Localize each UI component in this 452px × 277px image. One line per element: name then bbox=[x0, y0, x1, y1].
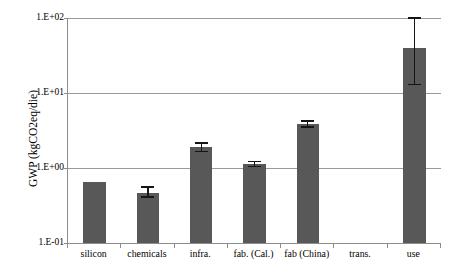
x-axis-tick-mark bbox=[440, 244, 441, 248]
x-axis-tick-mark bbox=[227, 244, 228, 248]
x-axis-tick-mark bbox=[387, 244, 388, 248]
error-bar-cap-lower bbox=[248, 166, 261, 168]
chart-container: GWP (kgCO2eq/die) 1.E+021.E+011.E+001.E-… bbox=[0, 0, 452, 277]
bar bbox=[190, 147, 213, 243]
y-axis-tick-label: 1.E-01 bbox=[24, 238, 64, 248]
y-axis-tick-label: 1.E+00 bbox=[24, 163, 64, 173]
x-axis-tick-mark bbox=[67, 244, 68, 248]
error-bar-line bbox=[414, 18, 415, 84]
x-axis-tick-mark bbox=[174, 244, 175, 248]
error-bar-cap-upper bbox=[408, 17, 421, 19]
y-axis-tick-mark bbox=[64, 18, 68, 19]
bar bbox=[243, 164, 266, 243]
x-axis-tick-mark bbox=[333, 244, 334, 248]
x-axis-tick-mark bbox=[120, 244, 121, 248]
error-bar-cap-lower bbox=[141, 196, 154, 198]
bar bbox=[137, 193, 160, 243]
x-axis-tick-mark bbox=[280, 244, 281, 248]
error-bar-cap-lower bbox=[195, 151, 208, 153]
error-bar-cap-lower bbox=[301, 126, 314, 128]
y-axis-tick-mark bbox=[64, 93, 68, 94]
error-bar-cap-lower bbox=[408, 84, 421, 86]
gridline bbox=[68, 18, 441, 19]
error-bar-cap-upper bbox=[195, 142, 208, 144]
y-axis-tick-label: 1.E+01 bbox=[24, 88, 64, 98]
x-axis-line bbox=[67, 243, 441, 244]
error-bar-cap-upper bbox=[248, 161, 261, 163]
y-axis-tick-mark bbox=[64, 168, 68, 169]
plot-area bbox=[67, 18, 440, 243]
gridline bbox=[68, 93, 441, 94]
error-bar-cap-upper bbox=[301, 120, 314, 122]
y-axis-tick-label: 1.E+02 bbox=[24, 13, 64, 23]
x-axis-tick-label: use bbox=[381, 249, 446, 260]
y-axis-tick-labels: 1.E+021.E+011.E+001.E-01 bbox=[20, 0, 64, 277]
error-bar-cap-upper bbox=[141, 186, 154, 188]
bar bbox=[297, 124, 320, 243]
bar bbox=[83, 182, 106, 243]
